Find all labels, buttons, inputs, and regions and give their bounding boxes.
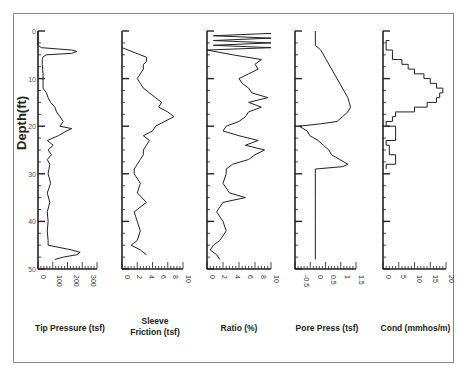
depth-tick-label: 40 <box>28 218 36 225</box>
x-tick-label: 0.5 <box>330 275 337 285</box>
x-label-ratio: Ratio (%) <box>194 323 284 333</box>
data-line <box>207 33 271 259</box>
x-label-cond: Cond (mmhos/m) <box>368 323 463 333</box>
x-label-sleeve-friction-2: Friction (tsf) <box>110 327 200 337</box>
x-tick-label: 10 <box>185 275 192 283</box>
depth-tick-label: 10 <box>28 76 36 83</box>
panel-sleeve-friction: 0246810 <box>122 31 192 283</box>
x-label-pore-press: Pore Press (tsf) <box>282 323 372 333</box>
x-tick-label: 1 <box>344 275 351 279</box>
panel-cond: 05101520 <box>383 31 455 283</box>
x-tick-label: 10 <box>416 275 423 283</box>
x-label-tip-pressure: Tip Pressure (tsf) <box>25 323 115 333</box>
x-tick-label: 10 <box>273 275 280 283</box>
depth-tick-label: 30 <box>28 171 36 178</box>
x-tick-label: 0 <box>40 275 47 279</box>
cpt-log-chart: 010020030002468100246810-0.500.511.50510… <box>0 0 467 376</box>
data-line <box>299 31 351 259</box>
depth-tick-label: 20 <box>28 123 36 130</box>
x-tick-label: 4 <box>148 275 155 279</box>
x-tick-label: 4 <box>234 275 241 279</box>
depth-tick-label: 0 <box>32 28 36 35</box>
x-tick-label: 100 <box>56 275 63 287</box>
panel-tip-pressure: 0100200300 <box>38 31 97 287</box>
x-tick-label: -0.5 <box>303 275 310 287</box>
x-tick-label: 5 <box>400 275 407 279</box>
x-tick-label: 2 <box>136 275 143 279</box>
y-axis-label: Depth(ft) <box>14 96 29 150</box>
x-tick-label: 20 <box>448 275 455 283</box>
data-line <box>122 48 174 255</box>
panel-pore-press: -0.500.511.5 <box>295 31 365 287</box>
x-tick-label: 6 <box>160 275 167 279</box>
x-tick-label: 2 <box>221 275 228 279</box>
x-tick-label: 8 <box>172 275 179 279</box>
x-tick-label: 0 <box>124 275 131 279</box>
x-tick-label: 0 <box>385 275 392 279</box>
x-tick-label: 200 <box>73 275 80 287</box>
x-tick-label: 300 <box>90 275 97 287</box>
x-label-sleeve-friction-1: Sleeve <box>110 316 200 326</box>
data-line <box>38 31 80 259</box>
x-tick-label: 8 <box>260 275 267 279</box>
x-tick-label: 15 <box>432 275 439 283</box>
x-tick-label: 0 <box>209 275 216 279</box>
panel-ratio: 0246810 <box>207 31 280 283</box>
x-tick-label: 1.5 <box>358 275 365 285</box>
x-tick-label: 0 <box>317 275 324 279</box>
data-line <box>386 41 443 170</box>
x-tick-label: 6 <box>247 275 254 279</box>
depth-tick-label: 50 <box>28 266 36 273</box>
